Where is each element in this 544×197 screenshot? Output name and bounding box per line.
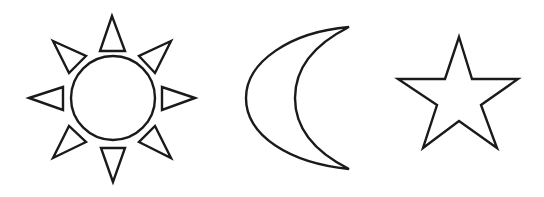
sun-ray-top [100, 16, 125, 51]
sun-icon [29, 16, 195, 182]
sun-ray-right [162, 87, 195, 110]
sun-ray-lower-right [139, 126, 171, 158]
sun-ray-upper-left [53, 41, 86, 73]
moon-icon [246, 27, 349, 169]
sun-ray-lower-left [53, 126, 86, 158]
symbols-figure [0, 0, 544, 197]
symbols-svg [0, 0, 544, 197]
sun-ray-left [29, 87, 63, 110]
sun-disc [71, 56, 155, 140]
sun-ray-bottom [101, 148, 125, 182]
star-icon [398, 37, 518, 148]
